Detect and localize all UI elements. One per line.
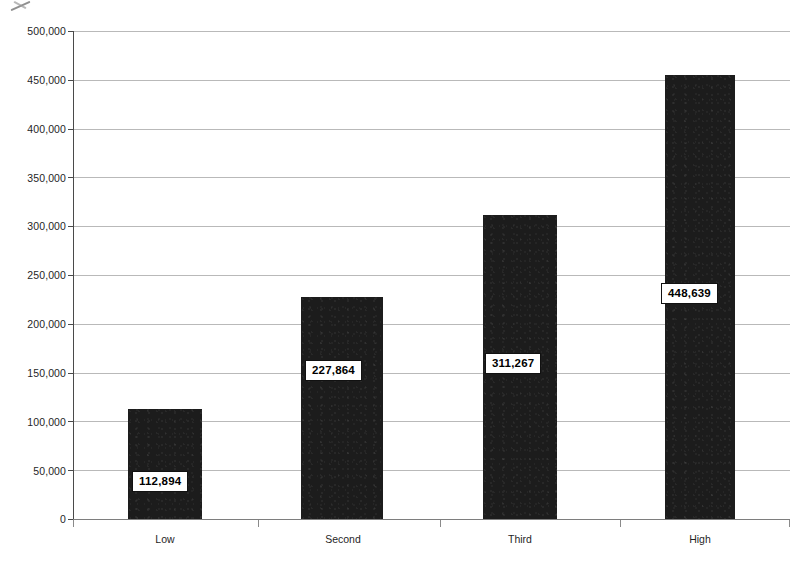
bar-low <box>128 409 202 519</box>
plot-area: 112,894 227,864 311,267 448,639 <box>73 31 790 519</box>
y-axis-tick-label: 100,000 <box>4 416 66 428</box>
y-axis-tick-label: 0 <box>4 513 66 525</box>
bar-second <box>301 297 383 519</box>
bar-chart: 500,000 450,000 400,000 350,000 300,000 … <box>0 0 809 561</box>
gridline <box>73 31 790 32</box>
y-axis-tick-label: 400,000 <box>4 123 66 135</box>
bar-value-label-low: 112,894 <box>132 471 188 492</box>
x-axis-tick-label: Third <box>508 533 532 545</box>
x-axis-tick-label: High <box>689 533 711 545</box>
y-axis-tick-label: 300,000 <box>4 220 66 232</box>
x-axis-tick-label: Second <box>325 533 361 545</box>
y-axis-tick-label: 50,000 <box>4 465 66 477</box>
bar-value-label-third: 311,267 <box>485 353 541 374</box>
y-axis-tick-label: 200,000 <box>4 318 66 330</box>
y-axis-line <box>73 31 74 520</box>
y-axis-tick-label: 500,000 <box>4 25 66 37</box>
x-axis-line <box>73 519 790 520</box>
x-axis-tick-label: Low <box>155 533 174 545</box>
bar-value-label-high: 448,639 <box>661 283 718 304</box>
y-axis-tick-label: 450,000 <box>4 74 66 86</box>
bar-value-label-second: 227,864 <box>305 360 362 381</box>
y-axis-labels: 500,000 450,000 400,000 350,000 300,000 … <box>0 0 66 561</box>
y-axis-tick-label: 150,000 <box>4 367 66 379</box>
y-axis-tick-label: 350,000 <box>4 172 66 184</box>
y-axis-tick-label: 250,000 <box>4 269 66 281</box>
